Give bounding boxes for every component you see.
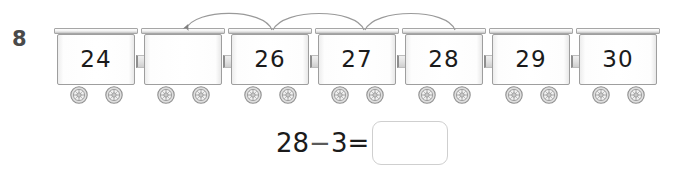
wagon-body: 30 <box>579 34 657 85</box>
wagon-wheel <box>453 86 471 104</box>
wagon-wheel <box>157 86 175 104</box>
equation-row: 28 − 3 = <box>276 118 448 168</box>
wagon-body <box>144 34 222 85</box>
answer-input-box[interactable] <box>372 121 448 165</box>
wagon-wheel <box>592 86 610 104</box>
wagon-wheel <box>192 86 210 104</box>
hop-arrow-1 <box>365 14 455 31</box>
hop-arrows-group <box>0 0 686 40</box>
wagon-body: 29 <box>492 34 570 85</box>
wagon-wheel <box>244 86 262 104</box>
hop-arrow-2 <box>273 14 364 31</box>
wagon-number: 29 <box>515 48 546 71</box>
wagon-wheel <box>505 86 523 104</box>
wagon-body: 28 <box>405 34 483 85</box>
wagon-body: 24 <box>57 34 135 85</box>
wagon-number: 24 <box>80 48 111 71</box>
wagon-number: 30 <box>602 48 633 71</box>
wagon-wheel <box>540 86 558 104</box>
wagon-number: 28 <box>428 48 459 71</box>
equation-equals-sign: = <box>347 130 369 156</box>
wagon-wheel <box>331 86 349 104</box>
wagon-body: 27 <box>318 34 396 85</box>
wagon-body: 26 <box>231 34 309 85</box>
wagon-number: 27 <box>341 48 372 71</box>
wagon-wheel <box>279 86 297 104</box>
wagon-wheel <box>627 86 645 104</box>
wagon-wheel <box>366 86 384 104</box>
wagon-wheel <box>105 86 123 104</box>
equation-minus-operator: − <box>309 130 331 156</box>
wagon-wheel <box>418 86 436 104</box>
equation-right-operand: 3 <box>331 130 348 156</box>
wagon-wheel <box>70 86 88 104</box>
equation-left-operand: 28 <box>276 130 309 156</box>
wagon-number: 26 <box>254 48 285 71</box>
hop-arrow-3 <box>186 13 272 30</box>
worksheet-page: 8 242627282930 28 − 3 = <box>0 0 686 181</box>
